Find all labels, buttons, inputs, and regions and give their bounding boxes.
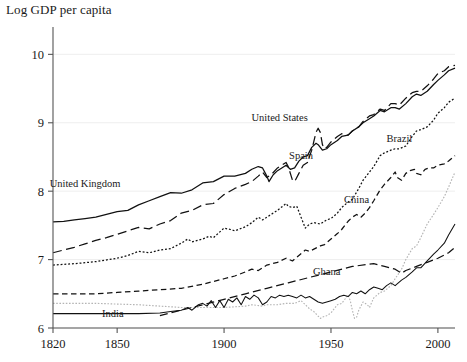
series-line-united-kingdom <box>53 68 455 222</box>
line-chart-plot: 67891018201850190019502000 United States… <box>0 0 467 362</box>
series-line-brazil <box>53 156 455 294</box>
series-label-brazil: Brazil <box>387 133 413 144</box>
y-tick-label: 10 <box>32 48 45 62</box>
y-tick-label: 8 <box>38 185 44 199</box>
series-line-ghana <box>160 247 455 315</box>
series-line-united-states <box>53 65 455 252</box>
series-label-india: India <box>102 308 124 319</box>
series-group <box>53 65 455 318</box>
x-tick-label: 1900 <box>212 337 237 351</box>
gridlines-group <box>53 54 455 328</box>
series-label-united-states: United States <box>252 112 308 123</box>
x-tick-label: 1820 <box>41 337 66 351</box>
series-label-ghana: Ghana <box>313 266 341 277</box>
series-labels-group: United StatesUnited KingdomSpainBrazilCh… <box>50 112 413 319</box>
series-label-united-kingdom: United Kingdom <box>50 178 121 189</box>
x-tick-label: 1950 <box>318 337 343 351</box>
y-tick-label: 6 <box>38 322 44 336</box>
series-label-china: China <box>344 194 369 205</box>
chart-figure: Log GDP per capita 678910182018501900195… <box>0 0 467 362</box>
x-tick-label: 1850 <box>105 337 130 351</box>
series-line-china <box>53 172 455 318</box>
y-tick-label: 7 <box>38 253 44 267</box>
x-tick-label: 2000 <box>425 337 450 351</box>
y-tick-label: 9 <box>38 116 44 130</box>
series-label-spain: Spain <box>289 150 314 161</box>
